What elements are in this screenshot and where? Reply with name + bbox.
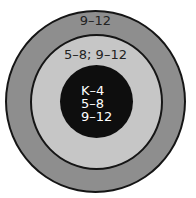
middle-ring-label: 5–8; 9–12 xyxy=(0,48,191,61)
inner-label-line: 9–12 xyxy=(81,110,112,123)
inner-circle-labels: K–4 5–8 9–12 xyxy=(81,84,112,123)
outer-ring-label: 9–12 xyxy=(0,14,191,27)
